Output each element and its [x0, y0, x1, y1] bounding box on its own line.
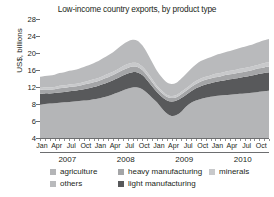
x-tick-mark [211, 139, 212, 141]
chart-figure: Low-income country exports, by product t… [0, 0, 274, 197]
x-tick-mark [113, 139, 114, 141]
year-label: 2008 [106, 155, 146, 164]
x-tick-mark [181, 139, 182, 141]
y-tick-label: 16 [14, 66, 36, 75]
x-tick-label: Oct [252, 142, 270, 149]
plot-area [40, 19, 269, 138]
x-tick-mark [137, 139, 138, 141]
x-tick-mark [176, 139, 177, 141]
x-axis-year-groups: 2007200820092010 [40, 152, 269, 168]
legend-swatch [118, 181, 124, 187]
x-tick-mark [84, 139, 85, 141]
x-tick-mark [201, 139, 202, 141]
x-tick-mark [64, 139, 65, 141]
x-tick-mark [152, 139, 153, 141]
x-tick-mark [264, 139, 265, 141]
chart-legend: agricultureheavy manufacturingminerals o… [0, 168, 274, 192]
x-tick-mark [186, 139, 187, 141]
y-tick-label: 20 [14, 49, 36, 58]
x-tick-mark [74, 139, 75, 141]
x-tick-mark [269, 139, 270, 141]
x-tick-mark [191, 139, 192, 141]
x-tick-mark [79, 139, 80, 141]
legend-item-others[interactable]: others [50, 180, 82, 188]
legend-swatch [50, 169, 56, 175]
year-label: 2010 [223, 155, 263, 164]
x-tick-mark [123, 139, 124, 141]
x-tick-mark [245, 139, 246, 141]
x-tick-mark [118, 139, 119, 141]
x-tick-mark [220, 139, 221, 141]
legend-swatch [209, 169, 215, 175]
legend-item-light-manufacturing[interactable]: light manufacturing [118, 180, 196, 188]
x-tick-mark [50, 139, 51, 141]
x-tick-mark [225, 139, 226, 141]
year-label: 2009 [164, 155, 204, 164]
year-rule [151, 152, 218, 153]
x-tick-mark [259, 139, 260, 141]
x-tick-mark [240, 139, 241, 141]
legend-item-heavy-manufacturing[interactable]: heavy manufacturing [118, 168, 202, 176]
x-tick-mark [133, 139, 134, 141]
x-tick-mark [59, 139, 60, 141]
x-tick-mark [89, 139, 90, 141]
x-tick-mark [206, 139, 207, 141]
x-tick-mark [235, 139, 236, 141]
x-tick-mark [103, 139, 104, 141]
x-tick-mark [157, 139, 158, 141]
y-tick-label: 24 [14, 32, 36, 41]
x-tick-mark [215, 139, 216, 141]
legend-swatch [50, 181, 56, 187]
legend-label: heavy manufacturing [128, 168, 202, 176]
y-tick-label: 6 [14, 117, 36, 126]
legend-item-agriculture[interactable]: agriculture [50, 168, 97, 176]
legend-item-minerals[interactable]: minerals [209, 168, 249, 176]
legend-label: light manufacturing [128, 180, 196, 188]
legend-label: others [60, 180, 82, 188]
x-tick-mark [45, 139, 46, 141]
y-tick-label: 8 [14, 100, 36, 109]
x-tick-mark [196, 139, 197, 141]
x-tick-mark [162, 139, 163, 141]
x-tick-mark [128, 139, 129, 141]
y-tick-label: 28 [14, 15, 36, 24]
y-tick-label: 12 [14, 83, 36, 92]
x-tick-mark [98, 139, 99, 141]
year-rule [92, 152, 159, 153]
x-tick-mark [108, 139, 109, 141]
x-tick-mark [167, 139, 168, 141]
stacked-area-series [40, 19, 269, 138]
legend-swatch [118, 169, 124, 175]
legend-row-2: otherslight manufacturing [0, 180, 274, 192]
x-tick-mark [250, 139, 251, 141]
x-tick-mark [254, 139, 255, 141]
year-label: 2007 [47, 155, 87, 164]
chart-title: Low-income country exports, by product t… [0, 4, 274, 14]
x-tick-mark [55, 139, 56, 141]
legend-label: agriculture [60, 168, 97, 176]
legend-label: minerals [219, 168, 249, 176]
x-tick-mark [94, 139, 95, 141]
x-axis-labels: JanAprJulOctJanAprJulOctJanAprJulOctJanA… [40, 142, 269, 152]
x-tick-mark [40, 139, 41, 141]
year-rule [209, 152, 269, 153]
x-tick-mark [230, 139, 231, 141]
x-tick-mark [172, 139, 173, 141]
x-tick-mark [147, 139, 148, 141]
x-tick-mark [69, 139, 70, 141]
x-tick-mark [142, 139, 143, 141]
